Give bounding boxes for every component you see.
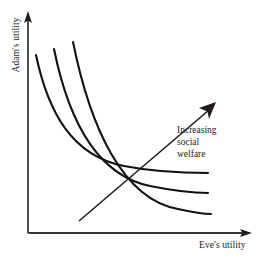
y-axis-label: Adam's utility <box>11 13 21 77</box>
utility-possibility-diagram: Adam's utility Eve's utility Increasing … <box>0 0 265 262</box>
annotation-line-3: welfare <box>177 148 217 160</box>
annotation-line-2: social <box>177 136 217 148</box>
increasing-welfare-annotation: Increasing social welfare <box>177 124 217 160</box>
x-axis-label: Eve's utility <box>199 240 246 250</box>
diagram-canvas <box>0 0 265 262</box>
indifference-curve-2 <box>54 49 208 193</box>
annotation-line-1: Increasing <box>177 124 217 136</box>
